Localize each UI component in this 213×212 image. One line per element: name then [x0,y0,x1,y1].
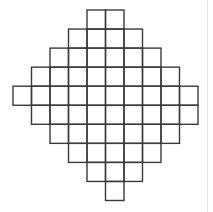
grid-cell [50,67,69,86]
grid-cell [106,124,125,143]
grid-cell [13,86,32,105]
grid-cell [69,124,88,143]
grid-cell [50,105,69,124]
grid-cell [50,48,69,67]
grid-cell [87,48,106,67]
grid-cell [87,29,106,48]
grid-cell [87,124,106,143]
grid-cell [87,162,106,181]
grid-diamond [0,0,213,212]
grid-cell [106,10,125,29]
grid-cell [87,143,106,162]
grid-cell [69,67,88,86]
grid-cell [161,105,180,124]
grid-cell [143,105,162,124]
grid-cell [50,86,69,105]
grid-cell [69,143,88,162]
grid-cell [106,86,125,105]
grid-cell [32,105,51,124]
grid-cell [32,86,51,105]
grid-cell [124,124,143,143]
grid-cell [69,48,88,67]
page-edge-line [207,0,208,212]
grid-cell [87,10,106,29]
grid-cell [106,162,125,181]
grid-cell [161,67,180,86]
grid-cell [124,29,143,48]
grid-cell [69,105,88,124]
grid-cell [106,48,125,67]
figure-canvas [0,0,213,212]
grid-cell [124,86,143,105]
grid-cell [106,29,125,48]
grid-cell [161,86,180,105]
grid-cell [143,124,162,143]
grid-cell [124,67,143,86]
grid-cell [180,105,199,124]
grid-cell [180,86,199,105]
grid-cell [143,143,162,162]
grid-cell [124,162,143,181]
grid-cell [106,105,125,124]
grid-cell [161,124,180,143]
grid-cell [143,86,162,105]
grid-cell [50,124,69,143]
grid-cell [143,48,162,67]
grid-cell [87,86,106,105]
grid-cell [69,29,88,48]
grid-cell [106,143,125,162]
grid-cell [106,181,125,200]
grid-cell [87,105,106,124]
grid-cell [124,48,143,67]
grid-cell [87,67,106,86]
grid-cell [124,143,143,162]
grid-cell [106,67,125,86]
grid-cell [69,86,88,105]
grid-cell [124,105,143,124]
grid-cell [143,67,162,86]
grid-cell [32,67,51,86]
